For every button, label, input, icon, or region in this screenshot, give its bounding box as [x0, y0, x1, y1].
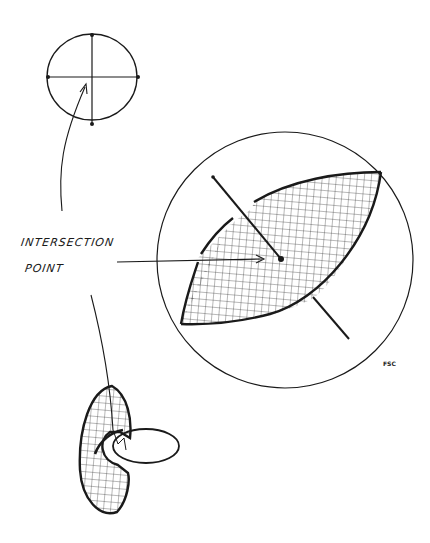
label-intersection: INTERSECTION [20, 236, 115, 249]
artist-signature: FSC [383, 360, 396, 367]
label-point: POINT [24, 262, 64, 275]
linked-rings-figure [80, 386, 179, 513]
small-circle-figure [46, 33, 140, 126]
diagram-canvas [0, 0, 430, 543]
arrow-to-small-circle [61, 84, 87, 211]
